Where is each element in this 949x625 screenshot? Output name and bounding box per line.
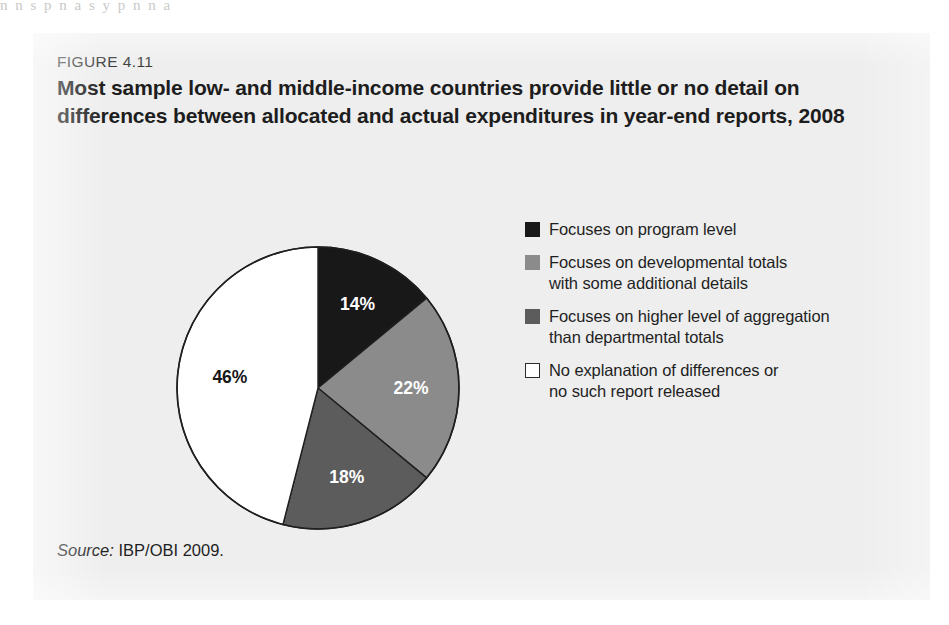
legend-item[interactable]: Focuses on developmental totals with som… [525, 252, 925, 293]
source-label: Source: [57, 541, 114, 559]
pie-chart: 14%22%18%46% [143, 213, 493, 563]
legend-item[interactable]: No explanation of differences or no such… [525, 360, 925, 401]
legend-swatch-icon [525, 222, 540, 237]
legend-item-label: Focuses on higher level of aggregation t… [549, 306, 830, 347]
legend-item[interactable]: Focuses on program level [525, 219, 925, 239]
legend-item-line2: no such report released [549, 382, 720, 400]
page-bleed-text: n n s p n a s y p n n a [0, 0, 949, 22]
figure-container: FIGURE 4.11 Most sample low- and middle-… [33, 33, 930, 600]
legend-item-label: Focuses on developmental totals with som… [549, 252, 787, 293]
pie-data-label: 46% [212, 367, 247, 387]
legend-item-line2: than departmental totals [549, 328, 724, 346]
figure-number: FIGURE 4.11 [57, 53, 153, 71]
pie-data-label: 22% [394, 378, 429, 398]
chart-legend: Focuses on program level Focuses on deve… [525, 219, 925, 414]
legend-item-line2: with some additional details [549, 274, 748, 292]
figure-source: Source: IBP/OBI 2009. [57, 541, 224, 560]
legend-item-label: No explanation of differences or no such… [549, 360, 778, 401]
pie-chart-svg: 14%22%18%46% [143, 213, 493, 563]
legend-item[interactable]: Focuses on higher level of aggregation t… [525, 306, 925, 347]
legend-item-line1: No explanation of differences or [549, 361, 778, 379]
legend-item-line1: Focuses on higher level of aggregation [549, 307, 830, 325]
legend-item-label: Focuses on program level [549, 219, 736, 239]
legend-swatch-icon [525, 255, 540, 270]
legend-item-line1: Focuses on developmental totals [549, 253, 787, 271]
pie-data-label: 18% [329, 467, 364, 487]
legend-item-line1: Focuses on program level [549, 220, 736, 238]
figure-title: Most sample low- and middle-income count… [57, 74, 857, 130]
legend-swatch-icon [525, 309, 540, 324]
source-text: IBP/OBI 2009. [118, 541, 223, 559]
pie-data-label: 14% [340, 294, 375, 314]
legend-swatch-icon [525, 363, 540, 378]
